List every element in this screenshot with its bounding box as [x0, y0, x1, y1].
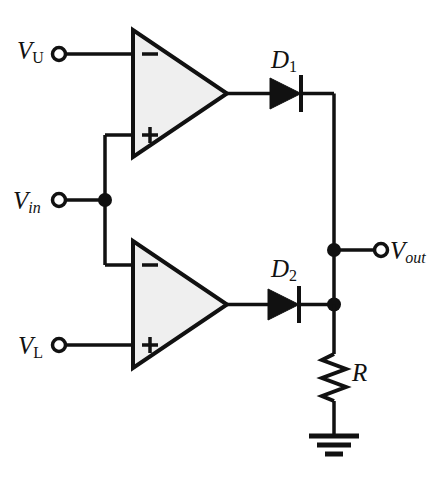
- label-v-in: Vin: [13, 188, 41, 216]
- junction-dot-vin: [98, 193, 112, 207]
- terminal-vu: [53, 48, 66, 61]
- label-v-lower-base: V: [18, 332, 33, 359]
- label-diode-d1-base: D: [271, 46, 289, 73]
- label-diode-d2-base: D: [271, 255, 289, 282]
- label-v-out: Vout: [390, 238, 426, 266]
- label-v-in-subscript: in: [28, 199, 40, 216]
- terminal-vin: [53, 194, 66, 207]
- label-v-in-base: V: [13, 187, 28, 214]
- label-resistor-r: R: [352, 360, 367, 385]
- terminal-vout: [375, 244, 388, 257]
- schematic-canvas: [0, 0, 446, 479]
- label-diode-d2: D2: [271, 256, 297, 284]
- label-v-upper-base: V: [17, 37, 32, 64]
- label-v-upper: VU: [17, 38, 44, 66]
- terminal-vl: [53, 339, 66, 352]
- resistor-zigzag: [322, 354, 346, 401]
- label-diode-d2-subscript: 2: [289, 267, 297, 284]
- label-v-out-subscript: out: [405, 249, 425, 266]
- label-v-lower: VL: [18, 333, 43, 361]
- opamp-bottom-body: [133, 241, 227, 368]
- diode-d1-triangle: [270, 78, 301, 109]
- label-v-lower-subscript: L: [33, 344, 43, 361]
- diode-d2-triangle: [268, 289, 299, 320]
- label-resistor-r-base: R: [352, 359, 367, 386]
- label-diode-d1: D1: [271, 47, 297, 75]
- label-diode-d1-subscript: 1: [289, 58, 297, 75]
- circuit-diagram: VU Vin VL Vout D1 D2 R: [0, 0, 446, 479]
- label-v-out-base: V: [390, 237, 405, 264]
- junction-dot-vout: [327, 243, 341, 257]
- label-v-upper-subscript: U: [32, 49, 44, 66]
- opamp-top-body: [133, 30, 227, 157]
